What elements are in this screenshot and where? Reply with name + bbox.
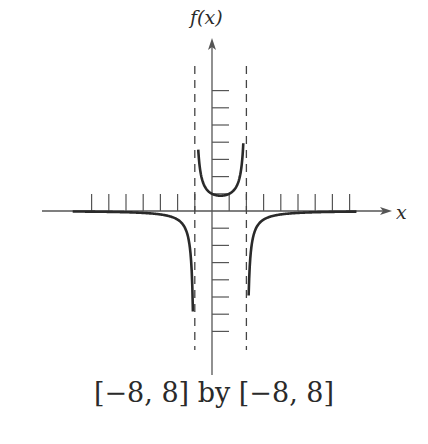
graph-figure: f(x) x [−8, 8] by [−8, 8] xyxy=(0,0,428,444)
function-curves xyxy=(73,143,357,311)
window-caption: [−8, 8] by [−8, 8] xyxy=(0,377,428,408)
y-axis-label: f(x) xyxy=(190,6,223,28)
vertical-asymptotes xyxy=(195,66,247,350)
x-axis-label: x xyxy=(396,201,407,223)
axes xyxy=(42,38,392,375)
